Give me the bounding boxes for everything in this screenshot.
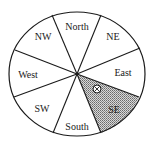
circled-x-marker-icon [93,85,101,93]
compass-wheel-diagram: North NE East SE South SW West NW [0,0,154,144]
label-se: SE [108,104,120,115]
label-south: South [65,121,88,132]
label-north: North [65,21,88,32]
label-sw: SW [35,103,51,114]
label-nw: NW [35,31,52,42]
label-ne: NE [106,31,119,42]
label-east: East [114,67,131,78]
label-west: West [18,69,38,80]
